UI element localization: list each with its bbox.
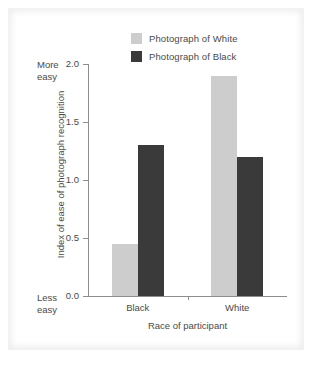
axis-note-more-easy: More easy (37, 59, 59, 82)
legend-label-photograph-of-black: Photograph of Black (149, 51, 236, 62)
legend-swatch-dark (131, 51, 142, 62)
axis-note-less-line1: Less (37, 292, 57, 304)
legend-swatch-light (131, 33, 142, 44)
x-axis-tick (188, 296, 189, 300)
axis-note-more-line2: easy (37, 71, 59, 83)
axis-note-less-line2: easy (37, 304, 57, 316)
y-axis-tick-label: 1.5 (66, 116, 79, 127)
chart-legend: Photograph of White Photograph of Black (131, 31, 238, 64)
y-axis-tick-label: 2.0 (66, 58, 79, 69)
axis-note-more-line1: More (37, 59, 59, 71)
figure-card: Photograph of White Photograph of Black … (9, 9, 303, 349)
bar-black-light (112, 244, 138, 296)
x-axis-category-label: White (225, 302, 249, 313)
y-axis-tick-label: 0.5 (66, 232, 79, 243)
bar-chart: Photograph of White Photograph of Black … (9, 9, 303, 349)
legend-label-photograph-of-white: Photograph of White (149, 33, 238, 44)
legend-item-photograph-of-black: Photograph of Black (131, 49, 238, 64)
legend-item-photograph-of-white: Photograph of White (131, 31, 238, 46)
y-axis-tick: 0.0 (83, 296, 88, 297)
y-axis-tick-label: 1.0 (66, 174, 79, 185)
bars-layer (88, 64, 287, 296)
bar-white-light (211, 76, 237, 296)
bar-black-dark (138, 145, 164, 296)
axis-note-less-easy: Less easy (37, 292, 57, 315)
y-axis-tick-label: 0.0 (66, 290, 79, 301)
y-axis-title: Index of ease of photograph recognition (55, 75, 66, 275)
x-axis-category-label: Black (126, 302, 149, 313)
x-axis-title: Race of participant (88, 320, 287, 331)
bar-white-dark (237, 157, 263, 296)
